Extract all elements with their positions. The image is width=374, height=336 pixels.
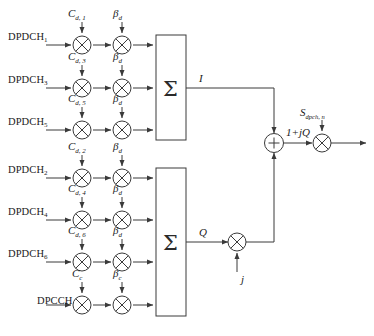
gain-label-dpdch3: βd [113,51,122,62]
code-label-dpdch1: Cd, 1 [68,8,86,19]
scrambling-code-label: Sdpch, n [300,107,325,118]
i-summer-symbol: Σ [163,77,178,101]
input-label-dpdch3: DPDCH3 [8,75,48,86]
gain-label-dpcch: βc [113,268,122,279]
branch-line-dpdch3 [46,65,153,88]
gain-label-dpdch1: βd [113,8,122,19]
branch-line-dpdch5 [46,107,153,130]
spreading-diagram: Σ Σ DPDCH1 DPDCH3 DPDCH5 DPDCH2 DPDCH4 D… [0,0,374,336]
j-label: j [241,274,244,285]
input-label-dpdch5: DPDCH5 [8,117,48,128]
gain-label-dpdch4: βd [113,183,122,194]
branch-line-dpdch2 [46,155,153,178]
branch-line-dpdch6 [46,239,153,262]
branch-line-dpdch4 [46,197,153,220]
input-label-dpdch2: DPDCH2 [8,165,48,176]
gain-label-dpdch2: βd [113,141,122,152]
q-signal-label: Q [199,227,207,238]
code-label-dpdch5: Cd, 5 [68,93,86,104]
code-label-dpdch3: Cd, 3 [68,51,86,62]
i-signal-label: I [199,73,203,84]
code-label-dpdch4: Cd, 4 [68,183,86,194]
q-summer-symbol: Σ [163,231,178,255]
input-label-dpdch4: DPDCH4 [8,207,48,218]
complex-signal-label: 1+jQ [286,127,310,138]
input-label-dpdch1: DPDCH1 [8,32,48,43]
gain-label-dpdch5: βd [113,93,122,104]
gain-label-dpdch6: βd [113,225,122,236]
branch-line-dpdch1 [46,22,153,45]
input-label-dpdch6: DPDCH6 [8,249,48,260]
input-label-dpcch: DPCCH [37,296,73,307]
diagram-canvas [0,0,374,336]
code-label-dpcch: Cc [72,268,82,279]
code-label-dpdch6: Cd, 6 [68,225,86,236]
code-label-dpdch2: Cd, 2 [68,141,86,152]
